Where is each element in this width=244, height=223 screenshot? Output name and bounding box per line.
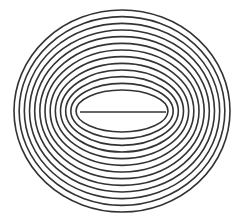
ellipse-ring (76, 90, 168, 132)
ellipse-ring (14, 10, 230, 212)
ellipse-ring (30, 30, 215, 192)
ellipse-ring (45, 50, 199, 172)
ellipse-ring (71, 83, 173, 138)
concentric-ellipses-diagram (0, 0, 244, 223)
ellipse-ring (61, 70, 184, 152)
ellipse-rings (14, 10, 230, 212)
ellipse-ring (66, 77, 179, 146)
ellipse-ring (50, 57, 194, 166)
